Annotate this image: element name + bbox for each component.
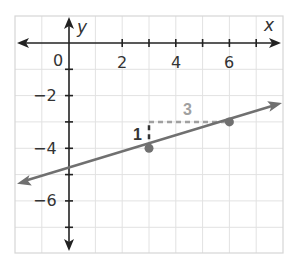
x-tick-label-6: 6 [224, 53, 234, 72]
coordinate-plane: y x 0 2 4 6 −2 −4 −6 3 1 [0, 0, 299, 276]
point-3-neg4 [145, 144, 154, 153]
point-6-neg3 [225, 117, 234, 126]
y-tick-label-neg4: −4 [33, 139, 57, 158]
y-tick-label-neg6: −6 [33, 191, 57, 210]
x-tick-label-2: 2 [117, 53, 127, 72]
y-tick-label-neg2: −2 [33, 86, 57, 105]
rise-label: 1 [133, 126, 142, 143]
run-label: 3 [183, 101, 192, 118]
y-axis-label: y [76, 17, 88, 37]
x-axis-label: x [263, 15, 275, 35]
origin-label: 0 [53, 51, 63, 70]
x-axis [22, 39, 276, 47]
x-tick-label-4: 4 [171, 53, 181, 72]
y-axis [65, 22, 73, 246]
